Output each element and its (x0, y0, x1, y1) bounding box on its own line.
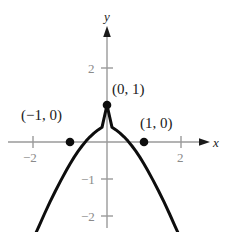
y-tick-label-neg1: −1 (81, 173, 95, 186)
annotation-vertex: (0, 1) (112, 82, 145, 97)
annotation-left-root: (−1, 0) (21, 108, 62, 123)
x-axis-label: x (213, 136, 219, 149)
y-axis-label: y (104, 10, 110, 23)
y-tick-label-neg2: −2 (81, 210, 95, 223)
x-tick-label-neg2: −2 (23, 151, 37, 164)
point-marker-left-root (66, 138, 75, 147)
y-tick-label-2: 2 (88, 62, 95, 75)
x-axis-arrow-icon (199, 138, 210, 146)
x-tick-label-2: 2 (177, 151, 184, 164)
y-axis-arrow-icon (103, 26, 111, 37)
parabola-figure: y x −2 2 2 −1 −2 (0, 1) (−1, 0) (1, 0) (0, 0, 226, 232)
annotation-right-root: (1, 0) (140, 116, 173, 131)
point-marker-right-root (140, 138, 149, 147)
point-marker-vertex (103, 101, 112, 110)
